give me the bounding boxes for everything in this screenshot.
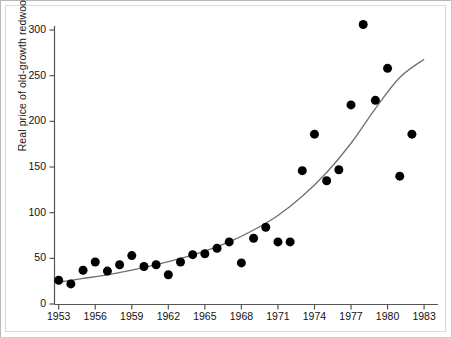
data-point: [139, 262, 148, 271]
x-tick-label: 1983: [399, 310, 449, 322]
data-point: [127, 251, 136, 260]
data-point: [407, 130, 416, 139]
trend-line: [59, 59, 424, 282]
y-tick-label: 100: [8, 206, 46, 218]
y-tick-label: 300: [8, 23, 46, 35]
data-point: [286, 237, 295, 246]
y-tick-label: 200: [8, 114, 46, 126]
data-point: [115, 260, 124, 269]
data-point: [310, 130, 319, 139]
y-tick-label: 150: [8, 160, 46, 172]
data-point: [261, 223, 270, 232]
data-point: [237, 258, 246, 267]
data-point: [176, 257, 185, 266]
y-axis-tick-marks: [50, 30, 55, 304]
data-point: [164, 270, 173, 279]
data-point: [66, 279, 75, 288]
data-point: [273, 237, 282, 246]
data-point: [213, 244, 222, 253]
x-axis-tick-marks: [59, 305, 424, 310]
data-point: [334, 165, 343, 174]
y-tick-label: 250: [8, 69, 46, 81]
data-point: [383, 64, 392, 73]
data-point: [395, 172, 404, 181]
y-tick-label: 50: [8, 251, 46, 263]
data-points: [54, 20, 416, 288]
data-point: [103, 267, 112, 276]
data-point: [359, 20, 368, 29]
data-point: [91, 257, 100, 266]
data-point: [152, 260, 161, 269]
data-point: [347, 100, 356, 109]
data-point: [188, 250, 197, 259]
data-point: [79, 266, 88, 275]
data-point: [371, 96, 380, 105]
data-point: [322, 176, 331, 185]
plot-canvas: [0, 0, 452, 338]
data-point: [249, 234, 258, 243]
data-point: [298, 166, 307, 175]
chart-figure: Real price of old-growth redwoods 050100…: [0, 0, 452, 338]
data-point: [54, 276, 63, 285]
data-point: [200, 249, 209, 258]
y-tick-label: 0: [8, 297, 46, 309]
axis-lines: [55, 26, 439, 305]
data-point: [225, 237, 234, 246]
